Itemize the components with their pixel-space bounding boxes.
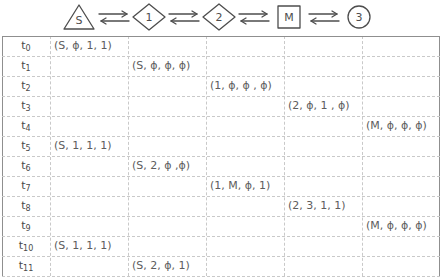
table-row: t7(1, M, ϕ, 1) [2,176,440,196]
state-tuple-cell: (S, 2, ϕ ,ϕ) [132,156,190,176]
time-label-base: t [21,59,25,72]
node-square-m: M [272,2,306,32]
node-diamond-2: 2 [202,2,236,32]
table-row: t2(1, ϕ, ϕ , ϕ) [2,76,440,96]
time-label-subscript: 7 [26,184,31,193]
state-tuple-cell: (2, ϕ, 1 , ϕ) [288,96,350,116]
state-tuple-cell: (2, 3, 1, 1) [288,196,346,216]
state-tuple-cell: (S, 1, 1, 1) [54,236,112,256]
table-row: t0(S, ϕ, 1, 1) [2,36,440,56]
grid-row-divider [2,276,440,277]
bidirectional-arrow-icon [306,7,342,27]
time-label-base: t [21,159,25,172]
table-row: t10(S, 1, 1, 1) [2,236,440,256]
time-label-subscript: 6 [26,164,31,173]
time-step-label: t8 [2,196,50,216]
time-step-label: t9 [2,216,50,236]
time-label-base: t [21,99,25,112]
time-label-subscript: 0 [26,44,31,53]
time-step-label: t1 [2,56,50,76]
time-label-subscript: 5 [26,144,31,153]
chain-node-row: S12M3 [62,2,376,32]
node-label: 1 [146,12,153,23]
time-step-label: t10 [2,236,50,256]
time-label-subscript: 3 [26,104,31,113]
state-tuple-cell: (1, M, ϕ, 1) [210,176,270,196]
time-label-subscript: 2 [26,84,31,93]
time-label-base: t [21,199,25,212]
node-label: M [284,12,294,23]
table-row: t8(2, 3, 1, 1) [2,196,440,216]
state-tuple-cell: (S, 1, 1, 1) [54,136,112,156]
time-label-subscript: 10 [23,244,33,253]
table-row: t11(S, 2, ϕ, 1) [2,256,440,276]
time-step-label: t6 [2,156,50,176]
time-label-subscript: 8 [26,204,31,213]
time-label-base: t [21,139,25,152]
table-row: t1(S, ϕ, ϕ, ϕ) [2,56,440,76]
table-row: t3(2, ϕ, 1 , ϕ) [2,96,440,116]
table-row: t4(M, ϕ, ϕ, ϕ) [2,116,440,136]
node-circle-3: 3 [342,2,376,32]
node-source-s: S [62,2,96,32]
node-label: S [76,15,83,26]
node-label: 2 [216,12,223,23]
timeline-table: t0(S, ϕ, 1, 1)t1(S, ϕ, ϕ, ϕ)t2(1, ϕ, ϕ ,… [2,36,440,276]
time-label-subscript: 1 [26,64,31,73]
time-label-subscript: 4 [26,124,31,133]
time-step-label: t2 [2,76,50,96]
node-diamond-1: 1 [132,2,166,32]
time-step-label: t0 [2,36,50,56]
time-label-subscript: 11 [23,264,33,273]
bidirectional-arrow-icon [166,7,202,27]
time-label-base: t [21,119,25,132]
bidirectional-arrow-icon [96,7,132,27]
state-tuple-cell: (S, ϕ, ϕ, ϕ) [132,56,190,76]
time-step-label: t7 [2,176,50,196]
node-label: 3 [356,12,363,23]
state-tuple-cell: (S, 2, ϕ, 1) [132,256,190,276]
state-tuple-cell: (1, ϕ, ϕ , ϕ) [210,76,272,96]
time-label-base: t [21,179,25,192]
state-tuple-cell: (S, ϕ, 1, 1) [54,36,112,56]
time-label-base: t [21,79,25,92]
state-tuple-cell: (M, ϕ, ϕ, ϕ) [366,216,427,236]
table-row: t9(M, ϕ, ϕ, ϕ) [2,216,440,236]
time-step-label: t4 [2,116,50,136]
chain-diagram: S12M3 [0,0,446,36]
table-row: t6(S, 2, ϕ ,ϕ) [2,156,440,176]
time-label-base: t [21,219,25,232]
state-tuple-cell: (M, ϕ, ϕ, ϕ) [366,116,427,136]
time-step-label: t3 [2,96,50,116]
time-step-label: t5 [2,136,50,156]
table-row: t5(S, 1, 1, 1) [2,136,440,156]
time-label-subscript: 9 [26,224,31,233]
time-label-base: t [21,39,25,52]
time-step-label: t11 [2,256,50,276]
bidirectional-arrow-icon [236,7,272,27]
